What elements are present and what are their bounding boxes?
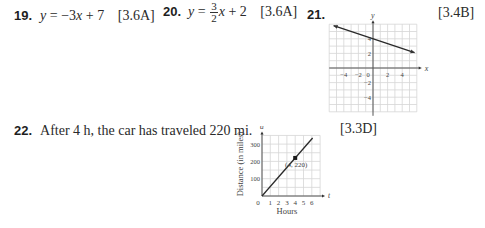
x-axis-arrow-icon [322,194,325,197]
y-axis-arrow-icon [371,20,374,23]
section-reference: [3.6A] [118,8,155,23]
x-tick-label: −2 [355,71,362,78]
y-axis-label: y [370,11,375,20]
problem-22: 22. After 4 h, the car has traveled 220 … [14,121,252,139]
y-axis-title: Distance (in miles) [235,131,245,196]
section-reference: [3.3D] [340,121,377,137]
problem-19: 19. y = −3x + 7 [3.6A] [14,6,155,24]
x-axis-title: Hours [277,206,298,216]
data-point [293,156,297,160]
y-tick-label: 100 [250,175,260,182]
x-axis-arrow-icon [419,66,422,69]
x-tick-label: 4 [401,71,405,78]
y-tick-label: −4 [364,94,372,101]
section-reference: [3.6A] [260,4,297,19]
y-axis-var-label: d [260,126,264,131]
problem-number: 21. [307,7,325,22]
x-tick-label: 0 [366,71,369,78]
problem-number: 20. [163,4,181,19]
answer-equation: y = 3 2 x + 2 [188,4,250,19]
x-tick-label: 1 [269,199,273,207]
problem-20: 20. y = 3 2 x + 2 [3.6A] [163,1,297,24]
graph-21: xy−4−202442−2−4 [325,10,430,120]
answer-equation: y = −3x + 7 [40,8,108,23]
graph-22: td0123456100200300HoursDistance (in mile… [234,126,334,216]
line-arrow-icon [334,25,338,29]
problem-number: 22. [14,123,32,138]
y-tick-label: −2 [364,79,371,86]
problem-number: 19. [14,8,32,23]
line-arrow-icon [410,49,414,53]
y-tick-label: 300 [250,141,260,148]
x-tick-label: −4 [340,71,348,78]
answer-text: After 4 h, the car has traveled 220 mi. [40,123,252,138]
data-point-label: (4, 220) [285,161,308,169]
y-tick-label: 200 [250,158,260,165]
y-tick-label: 2 [368,50,371,57]
fraction: 3 2 [210,1,218,24]
x-tick-label: 2 [386,71,389,78]
x-axis-label: x [424,64,429,73]
y-axis-arrow-icon [260,131,263,134]
x-tick-label: 0 [256,199,260,207]
x-axis-var-label: t [328,191,331,200]
x-tick-label: 6 [310,199,314,207]
x-tick-label: 5 [302,199,306,207]
section-reference: [3.4B] [438,5,474,21]
